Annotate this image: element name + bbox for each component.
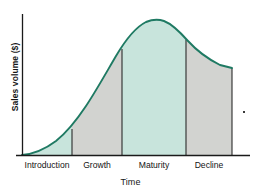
stage-label-maturity: Maturity xyxy=(122,160,186,170)
stage-label-growth: Growth xyxy=(72,160,122,170)
stage-label-introduction: Introduction xyxy=(22,160,72,170)
product-life-cycle-chart: Sales volume ($) Introduction Growth Mat… xyxy=(0,0,261,195)
x-axis-title: Time xyxy=(0,177,261,187)
scan-artifact-speck xyxy=(243,111,245,113)
stage-label-decline: Decline xyxy=(186,160,232,170)
y-axis-title: Sales volume ($) xyxy=(10,37,20,117)
